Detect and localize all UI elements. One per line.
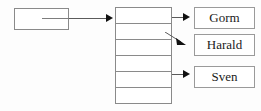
array-container xyxy=(115,7,172,104)
arrowhead-array-to-gorm xyxy=(183,13,190,21)
diagram-canvas: Gorm Harald Sven xyxy=(0,0,261,111)
name-box-sven[interactable]: Sven xyxy=(194,66,255,88)
diagonal-arrow-icon xyxy=(165,32,189,46)
pointer-box[interactable] xyxy=(14,8,69,30)
array-cell-4[interactable] xyxy=(116,72,171,88)
array-cell-3[interactable] xyxy=(116,56,171,72)
connector-pointer-to-array xyxy=(69,18,108,19)
arrowhead-pointer-to-array xyxy=(106,14,113,22)
arrowhead-array-to-sven xyxy=(183,70,190,78)
pointer-stub-line xyxy=(42,18,69,19)
connector-array-to-harald xyxy=(165,32,189,46)
array-cell-2[interactable] xyxy=(116,40,171,56)
name-box-gorm[interactable]: Gorm xyxy=(194,7,255,29)
name-box-harald[interactable]: Harald xyxy=(194,34,255,56)
array-cell-1[interactable] xyxy=(116,24,171,40)
array-cell-5[interactable] xyxy=(116,88,171,103)
array-cell-0[interactable] xyxy=(116,8,171,24)
